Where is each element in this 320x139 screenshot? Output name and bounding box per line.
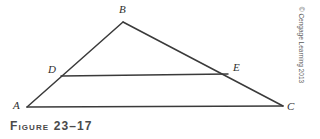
vertex-label-d: D — [48, 64, 56, 75]
figure-caption: Figure 23–17 — [10, 119, 93, 133]
segment-ab — [27, 22, 123, 107]
segment-bc — [123, 22, 283, 106]
vertex-label-e: E — [233, 62, 240, 73]
copyright-notice: © Cengage Learning 2013 — [297, 0, 305, 91]
vertex-label-b: B — [119, 4, 126, 15]
vertex-label-c: C — [287, 101, 294, 112]
segment-de — [61, 74, 228, 76]
segment-ac — [27, 106, 283, 107]
vertex-label-a: A — [13, 100, 20, 111]
figure-container: A B C D E Figure 23–17 © Cengage Learnin… — [0, 0, 320, 139]
